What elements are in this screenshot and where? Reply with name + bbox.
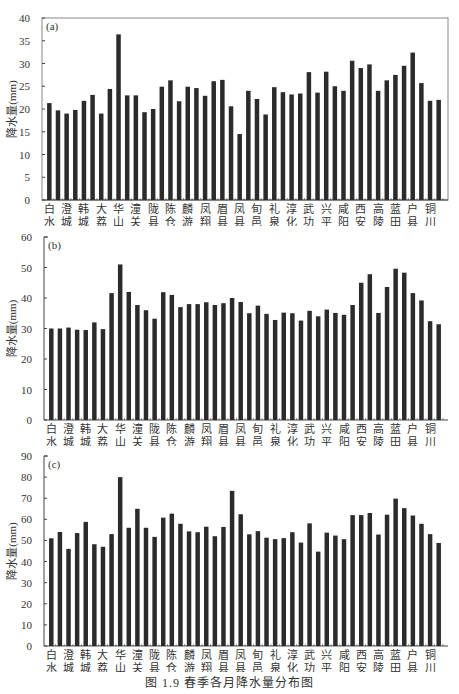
- x-category-label: 阳: [339, 436, 350, 446]
- bar: [436, 543, 440, 646]
- x-category-label: 县: [407, 216, 418, 226]
- x-category-label: 凤: [234, 203, 245, 215]
- x-category-label: 城: [63, 436, 74, 446]
- x-category-label: 陇: [149, 648, 160, 661]
- x-category-label: 阳: [339, 662, 350, 672]
- x-category-label: 陈: [166, 648, 177, 661]
- x-category-label: 凤: [201, 423, 212, 435]
- bar: [92, 322, 96, 420]
- bar: [385, 287, 389, 420]
- x-category-label: 陵: [373, 436, 384, 446]
- x-category-label: 县: [235, 436, 246, 446]
- x-category-label: 陇: [148, 202, 159, 215]
- x-category-label: 麟: [184, 648, 195, 661]
- bar: [161, 292, 165, 420]
- x-category-label: 礼: [270, 648, 281, 661]
- y-tick-label: 15: [19, 126, 31, 138]
- bar: [298, 94, 303, 200]
- x-category-label: 城: [80, 662, 91, 672]
- bar-chart-c: 0102030405060708090降水量(mm)(c)白水澄城韩城大荔华山潼…: [0, 446, 459, 672]
- panel-label: (a): [46, 20, 59, 33]
- bar: [160, 87, 165, 200]
- x-category-label: 凤: [235, 423, 246, 435]
- bar: [264, 314, 268, 420]
- bar: [58, 532, 62, 646]
- panel-label: (c): [48, 458, 61, 471]
- bar: [393, 269, 397, 420]
- y-axis-title: 降水量(mm): [5, 80, 19, 138]
- y-tick-label: 35: [19, 35, 31, 47]
- bar: [203, 96, 208, 200]
- bar: [125, 95, 130, 200]
- x-category-label: 户: [407, 422, 418, 435]
- x-category-label: 安: [356, 661, 367, 672]
- bar: [66, 549, 70, 646]
- x-category-label: 安: [356, 435, 367, 446]
- bar: [428, 534, 432, 646]
- bar: [73, 110, 78, 200]
- bar: [178, 307, 182, 420]
- x-category-label: 华: [115, 422, 126, 435]
- x-category-label: 游: [182, 216, 193, 226]
- bar: [152, 319, 156, 420]
- bar: [393, 499, 397, 646]
- x-category-label: 陵: [373, 216, 384, 226]
- x-category-label: 陈: [166, 422, 177, 435]
- bar: [247, 534, 251, 646]
- bar: [108, 89, 113, 200]
- y-tick-label: 0: [27, 640, 33, 652]
- bar: [118, 264, 122, 420]
- bar: [187, 304, 191, 420]
- y-tick-label: 50: [21, 534, 33, 546]
- bar: [229, 106, 234, 200]
- x-category-label: 荔: [96, 216, 107, 226]
- bar: [419, 83, 424, 200]
- x-category-label: 翔: [200, 215, 211, 226]
- bar: [230, 491, 234, 646]
- x-category-label: 铜: [425, 648, 436, 661]
- x-category-label: 韩: [78, 202, 89, 215]
- bar: [385, 515, 389, 646]
- bar: [273, 539, 277, 646]
- bar: [299, 321, 303, 420]
- x-category-label: 华: [115, 648, 126, 661]
- panel-label: (b): [48, 239, 61, 252]
- x-category-label: 武: [304, 649, 315, 661]
- x-category-label: 华: [113, 202, 124, 215]
- bar: [368, 274, 372, 420]
- x-category-label: 城: [63, 662, 74, 672]
- bar: [194, 88, 199, 200]
- x-category-label: 麟: [182, 202, 193, 215]
- x-category-label: 蓝: [390, 649, 401, 661]
- bar: [264, 538, 268, 646]
- bar: [290, 532, 294, 646]
- y-tick-label: 60: [21, 513, 33, 525]
- bar: [75, 533, 79, 646]
- bar: [134, 95, 139, 200]
- x-category-label: 川: [425, 436, 436, 446]
- bar: [307, 523, 311, 646]
- x-category-label: 县: [218, 436, 229, 446]
- y-tick-label: 40: [19, 12, 31, 24]
- x-category-label: 田: [390, 662, 401, 672]
- bar: [410, 53, 415, 200]
- x-category-label: 兴: [321, 423, 332, 435]
- bar: [367, 64, 372, 200]
- bar-chart-b: 0102030405060降水量(mm)(b)白水澄城韩城大荔华山潼关陇县陈仓麟…: [0, 226, 459, 446]
- bar: [109, 534, 113, 646]
- bar: [333, 536, 337, 646]
- bar: [101, 329, 105, 420]
- x-category-label: 礼: [270, 422, 281, 435]
- y-tick-label: 70: [21, 492, 33, 504]
- bar: [170, 295, 174, 420]
- bar: [350, 515, 354, 646]
- x-category-label: 关: [132, 435, 143, 446]
- x-category-label: 高: [373, 202, 384, 215]
- bar: [84, 522, 88, 646]
- x-category-label: 山: [113, 216, 124, 226]
- bar: [342, 539, 346, 646]
- x-category-label: 关: [132, 661, 143, 672]
- bar: [135, 509, 139, 646]
- x-category-label: 泉: [269, 215, 280, 226]
- y-tick-label: 90: [21, 450, 33, 462]
